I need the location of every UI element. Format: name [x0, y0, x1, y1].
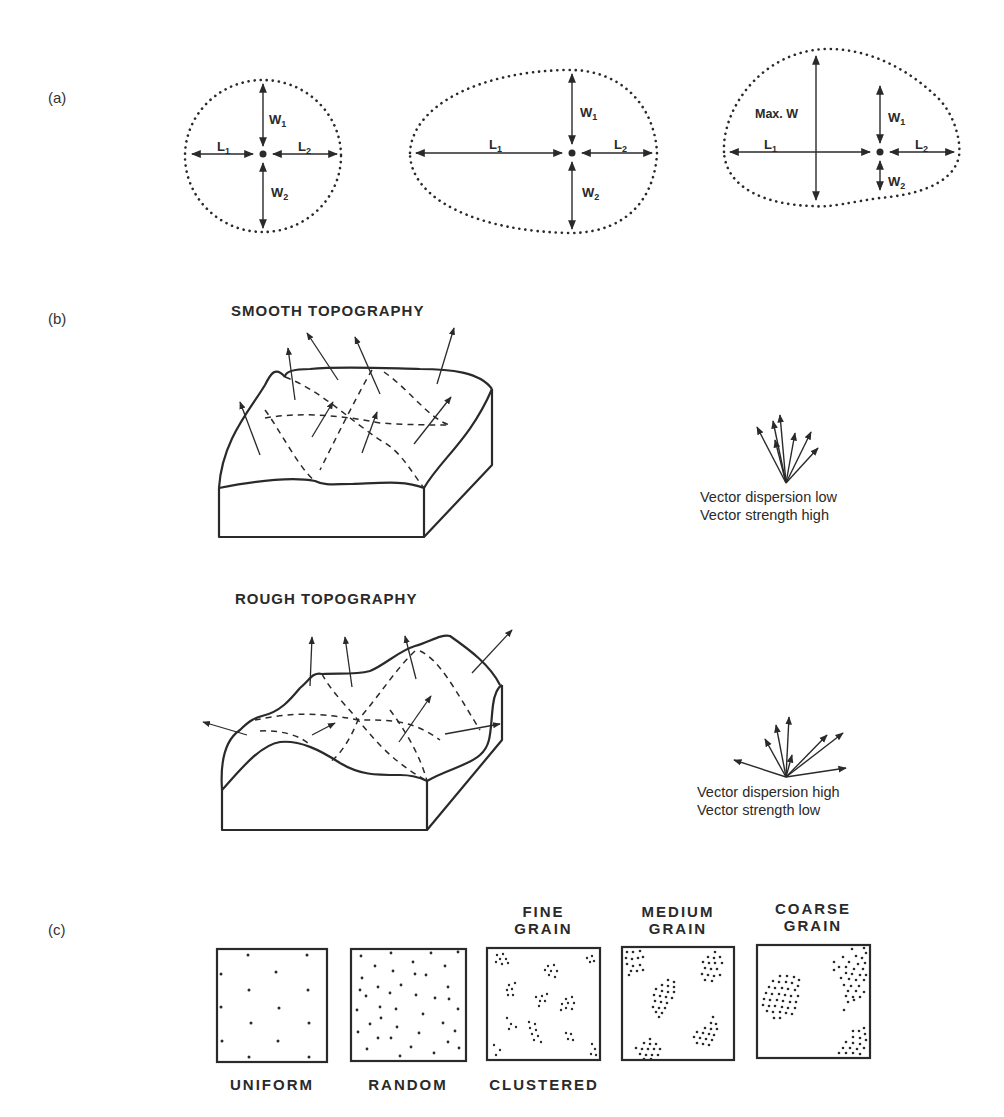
- label-medium-grain-line1: MEDIUM: [620, 903, 736, 920]
- svg-text:W2: W2: [888, 174, 905, 191]
- svg-text:L2: L2: [915, 137, 928, 154]
- label-fine-grain-line1: FINE: [487, 903, 600, 920]
- label-random: RANDOM: [346, 1076, 470, 1093]
- smooth-topography-block: [219, 367, 492, 537]
- smooth-vector-fan-icon: [757, 415, 818, 483]
- svg-text:L1: L1: [764, 137, 777, 154]
- smooth-topography-title: SMOOTH TOPOGRAPHY: [231, 302, 424, 319]
- shape-round: W1 W2 L1 L2: [185, 80, 341, 232]
- label-w1: W1: [269, 112, 286, 129]
- rough-caption-strength: Vector strength low: [697, 801, 820, 819]
- smooth-caption-strength: Vector strength high: [700, 506, 829, 524]
- label-fine-grain-line2: GRAIN: [487, 920, 600, 937]
- label-coarse-grain-line2: GRAIN: [755, 917, 871, 934]
- rough-vector-fan-icon: [734, 717, 846, 777]
- label-w2: W2: [271, 185, 288, 202]
- shape-irregular: Max. W W1 W2 L1 L2: [724, 49, 959, 206]
- box-coarse-grain: [757, 945, 870, 1058]
- rough-topography-title: ROUGH TOPOGRAPHY: [235, 590, 417, 607]
- box-random: [351, 949, 466, 1061]
- box-fine-grain: [487, 948, 600, 1060]
- shape-elongated: W1 W2 L1 L2: [410, 70, 657, 233]
- smooth-normal-vectors: [240, 328, 454, 455]
- rough-topography-block: [222, 636, 502, 830]
- diagram-canvas: W1 W2 L1 L2 W1 W2 L1 L2 Max. W W1 W2 L1 …: [0, 0, 1004, 1117]
- label-coarse-grain-line1: COARSE: [755, 900, 871, 917]
- box-uniform: [217, 949, 327, 1062]
- label-uniform: UNIFORM: [210, 1076, 334, 1093]
- label-clustered: CLUSTERED: [476, 1076, 612, 1093]
- label-l2: L2: [298, 139, 311, 156]
- label-max-w: Max. W: [755, 107, 798, 121]
- svg-text:W2: W2: [582, 185, 599, 202]
- rough-caption-dispersion: Vector dispersion high: [697, 783, 840, 801]
- svg-text:L2: L2: [614, 137, 627, 154]
- smooth-caption-dispersion: Vector dispersion low: [700, 488, 837, 506]
- svg-text:L1: L1: [489, 137, 502, 154]
- svg-text:W1: W1: [888, 110, 905, 127]
- label-medium-grain-line2: GRAIN: [620, 920, 736, 937]
- svg-text:W1: W1: [580, 105, 597, 122]
- box-medium-grain: [622, 947, 734, 1060]
- label-l1: L1: [217, 139, 230, 156]
